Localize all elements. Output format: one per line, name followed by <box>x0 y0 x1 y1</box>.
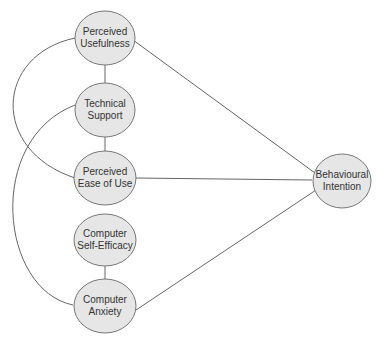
label-bi-2: Intention <box>323 181 361 192</box>
tam-diagram: Perceived Usefulness Technical Support P… <box>0 0 389 352</box>
label-ts-1: Technical <box>84 98 126 109</box>
label-ts-2: Support <box>87 110 122 121</box>
edge-ca-bi <box>136 190 316 310</box>
label-cse-2: Self-Efficacy <box>77 240 132 251</box>
edge-pu-bi <box>133 40 315 173</box>
label-cse-1: Computer <box>83 228 128 239</box>
label-peou-2: Ease of Use <box>78 178 133 189</box>
label-peou-1: Perceived <box>83 166 127 177</box>
label-bi-1: Behavioural <box>316 169 369 180</box>
edge-peou-bi <box>135 178 312 180</box>
label-ca-2: Anxiety <box>89 306 122 317</box>
label-pu-1: Perceived <box>83 26 127 37</box>
edge-ca-ts-curve <box>13 105 75 305</box>
label-ca-1: Computer <box>83 294 128 305</box>
label-pu-2: Usefulness <box>80 38 129 49</box>
